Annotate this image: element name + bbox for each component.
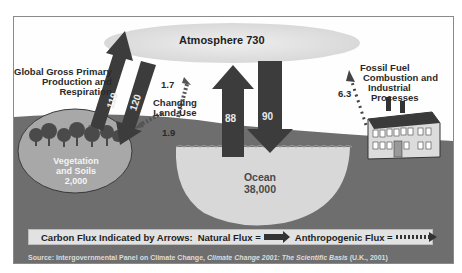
vegetation-label: Vegetation and Soils 2,000: [48, 157, 104, 187]
fossil-label: Fossil Fuel Combustion and Industrial Pr…: [360, 63, 438, 103]
fossil-label-line4: Processes: [371, 93, 438, 103]
atmosphere-label: Atmosphere 730: [179, 35, 265, 47]
factory-icon: [368, 97, 440, 159]
natural-flux-arrow-icon: [264, 234, 284, 240]
vegetation-value: 2,000: [48, 177, 104, 187]
gpp-label-line3: Respiration: [14, 87, 112, 97]
diagram-scene: [14, 17, 453, 263]
legend-natural-label: Natural Flux =: [198, 232, 261, 243]
legend-bar: Carbon Flux Indicated by Arrows: Natural…: [28, 229, 433, 245]
ocean-label-line1: Ocean: [232, 172, 288, 184]
ocean-label: Ocean 38,000: [232, 172, 288, 195]
ocean-value: 38,000: [232, 184, 288, 196]
flux-value-6.3: 6.3: [338, 89, 351, 99]
carbon-cycle-diagram: Atmosphere 730 Global Gross Primary Prod…: [13, 16, 454, 264]
source-prefix: Source: Intergovernmental Panel on Clima…: [28, 254, 205, 261]
flux-value-1.9: 1.9: [162, 128, 175, 138]
source-title: Climate Change 2001: The Scientific Basi…: [207, 254, 348, 261]
flux-value-88: 88: [225, 113, 236, 124]
landuse-label-line2: Land-Use: [153, 108, 197, 118]
source-suffix: (U.K., 2001): [350, 254, 388, 261]
gpp-label: Global Gross Primary Production and Resp…: [14, 67, 112, 97]
legend-prefix: Carbon Flux Indicated by Arrows:: [41, 232, 193, 243]
legend-anthropogenic-label: Anthropogenic Flux =: [295, 232, 393, 243]
anthropogenic-flux-arrow-icon: [396, 235, 429, 239]
landuse-label: Changing Land-Use: [153, 98, 197, 118]
source-citation: Source: Intergovernmental Panel on Clima…: [28, 254, 388, 261]
flux-value-90: 90: [262, 111, 273, 122]
flux-value-1.7: 1.7: [161, 80, 174, 90]
